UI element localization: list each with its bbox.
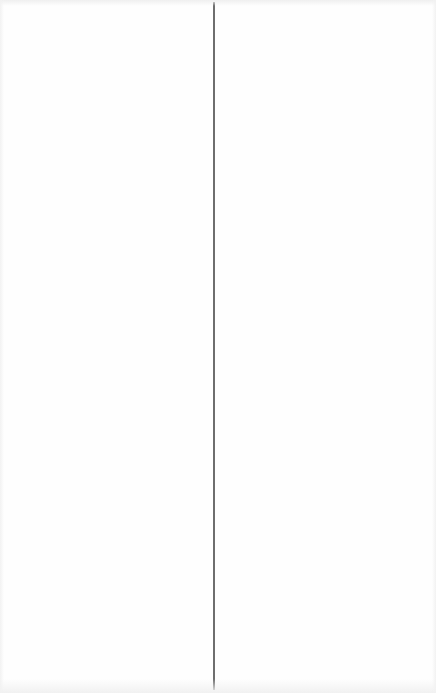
left-pane <box>0 0 213 693</box>
right-pane <box>215 0 436 693</box>
split-view <box>0 0 436 693</box>
